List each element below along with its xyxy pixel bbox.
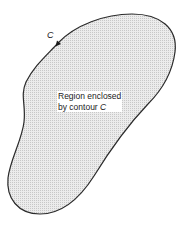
contour-label-c: C bbox=[47, 30, 54, 40]
region-label-line2: by contour C bbox=[58, 102, 121, 113]
region-label-contour-var: C bbox=[100, 102, 106, 112]
contour-diagram bbox=[0, 0, 184, 226]
region-label-line1: Region enclosed bbox=[58, 91, 121, 102]
region-label-line2-prefix: by contour bbox=[58, 102, 100, 112]
contour-c-region bbox=[8, 14, 176, 214]
region-label: Region enclosed by contour C bbox=[57, 91, 122, 112]
